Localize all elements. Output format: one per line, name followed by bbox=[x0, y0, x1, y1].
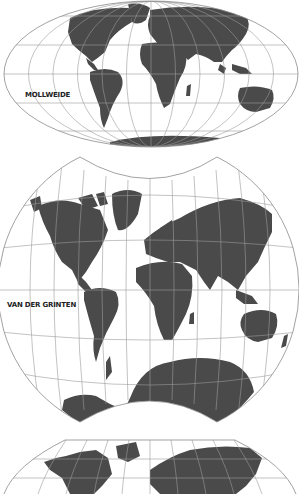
robinson-land bbox=[44, 442, 262, 494]
mollweide-label: MOLLWEIDE bbox=[25, 91, 70, 99]
robinson-map bbox=[0, 440, 299, 494]
van-der-grinten-map bbox=[0, 150, 299, 430]
projections-figure bbox=[0, 0, 299, 494]
van-der-grinten-label: VAN DER GRINTEN bbox=[7, 301, 76, 309]
mollweide-map bbox=[0, 0, 299, 150]
